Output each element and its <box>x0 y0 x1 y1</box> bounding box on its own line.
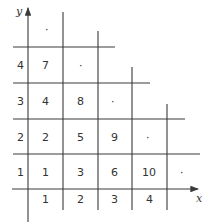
cell-1-2: 2 <box>42 131 49 144</box>
x-axis-label: x <box>196 192 203 205</box>
cell-2-2: 5 <box>77 131 84 144</box>
cell-3-3: · <box>111 95 115 108</box>
x-tick-3: 3 <box>111 193 118 206</box>
cell-4-2: · <box>146 131 150 144</box>
cell-2-3: 8 <box>77 95 84 108</box>
cell-2-1: 3 <box>77 166 84 179</box>
x-tick-1: 1 <box>42 193 49 206</box>
y-tick-2: 2 <box>17 131 24 144</box>
y-axis-label: y <box>15 5 23 18</box>
cell-5-1: · <box>180 166 184 179</box>
y-tick-1: 1 <box>17 166 24 179</box>
cell-1-5: · <box>45 23 49 36</box>
cell-3-2: 9 <box>111 131 118 144</box>
x-tick-2: 2 <box>77 193 84 206</box>
cell-4-1: 10 <box>142 166 156 179</box>
cell-2-4: · <box>79 59 83 72</box>
pairing-diagram: y x 1 2 3 4 1 2 3 4 1 3 6 10 · 2 5 9 · 4… <box>0 0 210 222</box>
cell-1-4: 7 <box>42 59 49 72</box>
cell-3-1: 6 <box>111 166 118 179</box>
x-tick-4: 4 <box>146 193 153 206</box>
y-tick-4: 4 <box>17 59 24 72</box>
cell-1-3: 4 <box>42 95 49 108</box>
cell-1-1: 1 <box>42 166 49 179</box>
y-tick-3: 3 <box>17 95 24 108</box>
